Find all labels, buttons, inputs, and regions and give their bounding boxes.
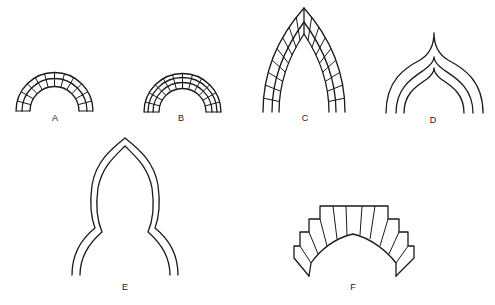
arch-a: A [16,73,93,124]
voussoir-joint [72,84,82,94]
arch-b-inner-ring [159,89,206,112]
voussoir-joint [316,38,325,55]
voussoir-joint [189,75,193,89]
voussoir-joint [155,85,166,96]
arch-f: F [294,206,414,292]
arch-f-intrados [309,234,396,276]
arch-b-label: B [178,113,184,123]
voussoir-joint [17,101,31,105]
arch-d-middle-ring [396,57,473,113]
voussoir-joint [283,38,292,55]
arch-e: E [72,138,178,292]
arch-a-inner-ring [30,87,79,111]
voussoir-joint [329,98,345,101]
arch-b: B [144,74,221,124]
arch-d: D [386,33,483,125]
arch-a-label: A [52,113,58,123]
arch-c: C [263,8,345,123]
arch-c-label: C [302,113,309,123]
arch-d-outer-ring [386,33,483,113]
arch-f-label: F [350,282,356,292]
voussoir-joint [264,98,280,101]
voussoir-joint [173,75,177,89]
arch-c-middle-ring [272,22,336,112]
arch-c-inner-ring [279,34,329,112]
voussoir-joint [61,74,65,88]
voussoir-joint [205,102,219,106]
arch-e-outer-outline [72,138,178,275]
arch-d-inner-ring [404,68,464,113]
arch-d-label: D [430,115,437,125]
arch-e-inner-outline [80,146,170,275]
voussoir-joint [45,74,49,88]
arch-diagram: A B C D E [0,0,495,305]
voussoir-joint [78,101,92,105]
voussoir-joint [199,85,210,96]
voussoir-joint [27,84,37,94]
arch-b-voussoir-joints [144,74,221,113]
voussoir-joint [145,102,159,106]
arch-e-label: E [122,282,128,292]
